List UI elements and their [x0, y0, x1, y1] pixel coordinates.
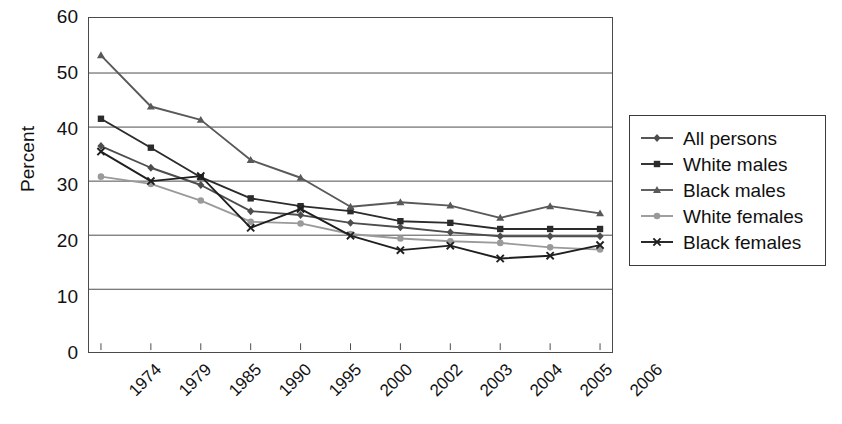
- series-black-males: [97, 51, 604, 221]
- y-tick-label: 60: [32, 7, 78, 26]
- y-tick-label: 50: [32, 63, 78, 82]
- legend-marker-triangle-icon: [640, 181, 674, 199]
- legend-item-black-females[interactable]: Black females: [640, 229, 815, 255]
- x-tick-label: 1979: [175, 360, 216, 401]
- legend-item-label: Black males: [683, 181, 785, 200]
- line-chart: Percent 6050403020100 197419791985199019…: [0, 0, 842, 424]
- y-axis-tick-labels: 6050403020100: [32, 0, 78, 424]
- legend-item-label: All persons: [683, 129, 777, 148]
- x-tick-label: 2003: [476, 360, 517, 401]
- series-white-males: [98, 116, 603, 233]
- plot-area: [88, 17, 613, 353]
- x-tick-label: 1974: [125, 360, 166, 401]
- x-tick-label: 2002: [426, 360, 467, 401]
- legend-marker-x-icon: [640, 233, 674, 251]
- legend-marker-diamond-icon: [640, 129, 674, 147]
- legend: All personsWhite malesBlack malesWhite f…: [629, 115, 826, 266]
- legend-item-label: White females: [683, 207, 803, 226]
- x-axis-tick-labels: 1974197919851990199520002002200320042005…: [88, 354, 613, 424]
- series-lines: [89, 18, 612, 352]
- legend-item-white-females[interactable]: White females: [640, 203, 815, 229]
- legend-marker-circle-icon: [640, 207, 674, 225]
- y-tick-label: 30: [32, 175, 78, 194]
- x-tick-label: 1990: [275, 360, 316, 401]
- legend-item-black-males[interactable]: Black males: [640, 177, 815, 203]
- x-tick-label: 1995: [325, 360, 366, 401]
- x-tick-label: 1985: [225, 360, 266, 401]
- x-tick-label: 2000: [376, 360, 417, 401]
- legend-item-all-persons[interactable]: All persons: [640, 125, 815, 151]
- legend-item-white-males[interactable]: White males: [640, 151, 815, 177]
- x-tick-label: 2006: [626, 360, 667, 401]
- x-tick-label: 2005: [576, 360, 617, 401]
- legend-item-label: White males: [683, 155, 788, 174]
- y-tick-label: 20: [32, 231, 78, 250]
- y-tick-label: 10: [32, 287, 78, 306]
- y-tick-label: 0: [32, 343, 78, 362]
- legend-marker-square-icon: [640, 155, 674, 173]
- legend-item-label: Black females: [683, 233, 801, 252]
- x-tick-label: 2004: [526, 360, 567, 401]
- y-tick-label: 40: [32, 119, 78, 138]
